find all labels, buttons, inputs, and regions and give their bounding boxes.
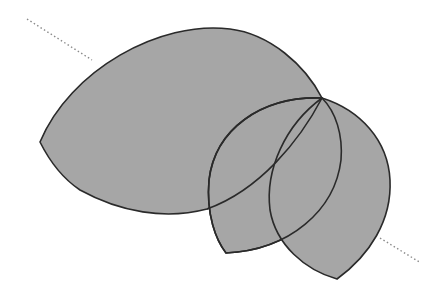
dotted-line-lower	[380, 238, 421, 263]
diagram-canvas	[0, 0, 430, 295]
dotted-line-upper	[27, 19, 92, 60]
